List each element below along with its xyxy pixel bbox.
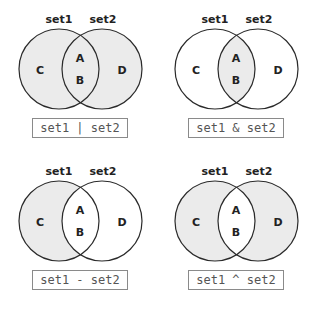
region-a-label: A xyxy=(232,204,241,217)
venn-panel-intersection: set1 set2 C A B D set1 & set2 xyxy=(156,0,312,154)
venn-panel-difference: set1 set2 C A B D set1 - set2 xyxy=(0,152,156,306)
region-a-label: A xyxy=(76,204,85,217)
region-c-label: C xyxy=(36,216,44,229)
region-d-label: D xyxy=(117,216,126,229)
venn-diagram-difference: set1 set2 C A B D xyxy=(0,152,156,272)
region-b-label: B xyxy=(76,226,84,239)
venn-panel-union: set1 set2 C A B D set1 | set2 xyxy=(0,0,156,154)
operation-label-intersection: set1 & set2 xyxy=(188,118,284,138)
region-b-label: B xyxy=(76,74,84,87)
operation-label-union: set1 | set2 xyxy=(32,118,128,138)
venn-diagram-intersection: set1 set2 C A B D xyxy=(156,0,312,120)
region-d-label: D xyxy=(117,64,126,77)
operation-label-symmetric-difference: set1 ^ set2 xyxy=(188,270,284,290)
venn-panel-symmetric-difference: set1 set2 C A B D set1 ^ set2 xyxy=(156,152,312,306)
set2-label: set2 xyxy=(246,13,273,26)
region-c-label: C xyxy=(192,64,200,77)
region-b-label: B xyxy=(232,74,240,87)
region-b-label: B xyxy=(232,226,240,239)
operation-label-difference: set1 - set2 xyxy=(32,270,128,290)
set2-label: set2 xyxy=(90,13,117,26)
region-a-label: A xyxy=(232,52,241,65)
region-d-label: D xyxy=(273,216,282,229)
venn-diagram-symmetric-difference: set1 set2 C A B D xyxy=(156,152,312,272)
set2-label: set2 xyxy=(90,165,117,178)
set1-label: set1 xyxy=(202,165,229,178)
region-c-label: C xyxy=(192,216,200,229)
region-c-label: C xyxy=(36,64,44,77)
region-d-label: D xyxy=(273,64,282,77)
set1-label: set1 xyxy=(46,165,73,178)
set1-label: set1 xyxy=(46,13,73,26)
set1-label: set1 xyxy=(202,13,229,26)
venn-diagram-union: set1 set2 C A B D xyxy=(0,0,156,120)
set2-label: set2 xyxy=(246,165,273,178)
region-a-label: A xyxy=(76,52,85,65)
